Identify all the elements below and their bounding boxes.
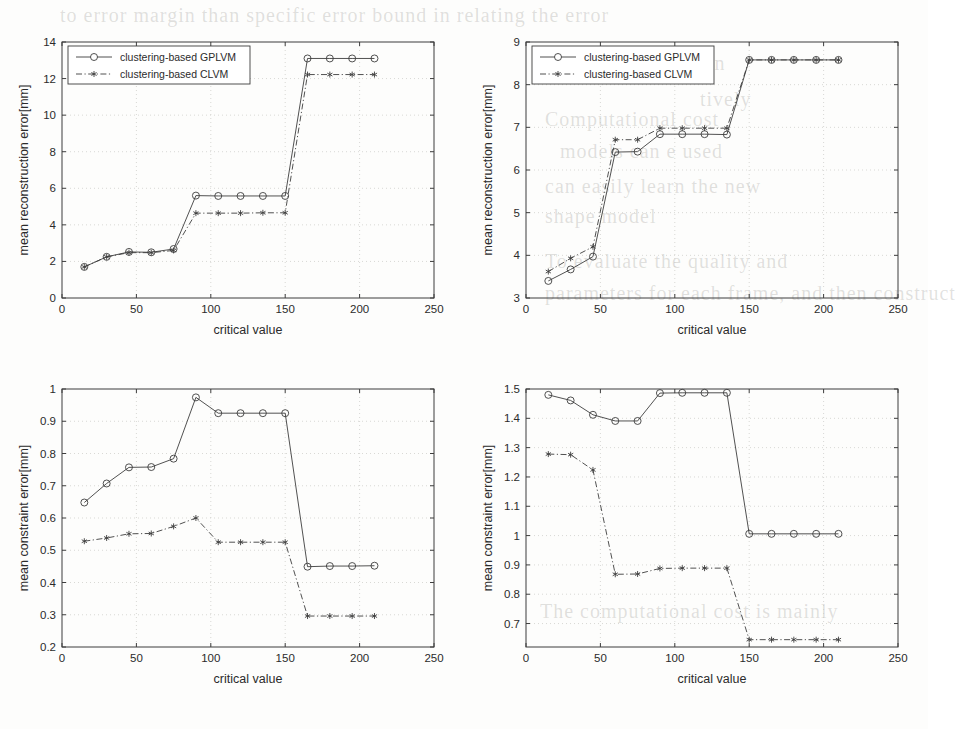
legend-label: clustering-based GPLVM — [584, 51, 700, 63]
asterisk-marker — [590, 467, 595, 473]
asterisk-marker — [546, 269, 551, 275]
x-tick-label: 150 — [276, 303, 295, 315]
asterisk-marker — [724, 565, 729, 571]
x-tick-label: 200 — [350, 652, 369, 664]
panel-bottom-left: 0501001502002500.20.30.40.50.60.70.80.91… — [0, 365, 464, 729]
asterisk-marker — [635, 137, 640, 143]
y-tick-label: 4 — [514, 249, 521, 261]
x-tick-label: 0 — [523, 652, 529, 664]
panel-top-left: 05010015020025002468101214critical value… — [0, 0, 464, 365]
x-tick-label: 250 — [888, 652, 907, 664]
y-tick-label: 1.3 — [504, 442, 520, 454]
y-tick-label: 0.5 — [40, 544, 56, 556]
chart-top-right: 0501001502002503456789critical valuemean… — [464, 0, 928, 365]
circle-marker — [91, 54, 98, 61]
legend: clustering-based GPLVMclustering-based C… — [68, 46, 250, 84]
y-tick-label: 1.5 — [504, 383, 520, 395]
y-tick-label: 8 — [50, 146, 56, 158]
x-tick-label: 250 — [888, 303, 907, 315]
x-axis-label: critical value — [678, 672, 747, 686]
asterisk-marker — [702, 125, 707, 131]
x-tick-label: 100 — [201, 303, 220, 315]
x-tick-label: 50 — [594, 303, 607, 315]
legend-label: clustering-based CLVM — [584, 68, 692, 80]
circle-marker — [555, 54, 562, 61]
y-tick-label: 1.2 — [504, 471, 520, 483]
y-tick-label: 2 — [50, 255, 56, 267]
y-tick-label: 0.7 — [504, 618, 520, 630]
asterisk-marker — [260, 539, 265, 545]
series-line-gplvm — [84, 58, 374, 266]
x-tick-label: 100 — [201, 652, 220, 664]
legend: clustering-based GPLVMclustering-based C… — [532, 46, 714, 84]
y-tick-label: 7 — [514, 121, 520, 133]
chart-bottom-left: 0501001502002500.20.30.40.50.60.70.80.91… — [0, 365, 464, 729]
y-tick-label: 0.4 — [40, 577, 57, 589]
asterisk-marker — [82, 264, 87, 270]
y-tick-label: 0.2 — [40, 641, 56, 653]
x-tick-label: 200 — [814, 652, 833, 664]
y-tick-label: 0.9 — [504, 559, 520, 571]
x-tick-label: 150 — [740, 303, 759, 315]
asterisk-marker — [327, 613, 332, 619]
chart-bottom-right: 0501001502002500.70.80.911.11.21.31.41.5… — [464, 365, 928, 729]
asterisk-marker — [171, 523, 176, 529]
asterisk-marker — [126, 531, 131, 537]
series-line-clvm — [548, 60, 838, 272]
x-tick-label: 250 — [424, 303, 443, 315]
asterisk-marker — [568, 452, 573, 458]
x-tick-label: 200 — [814, 303, 833, 315]
y-tick-label: 4 — [50, 219, 57, 231]
asterisk-marker — [613, 571, 618, 577]
chart-top-left: 05010015020025002468101214critical value… — [0, 0, 464, 365]
series-line-clvm — [548, 454, 838, 640]
legend-label: clustering-based GPLVM — [120, 51, 236, 63]
y-axis-label: mean constraint error[mm] — [17, 445, 31, 592]
x-tick-label: 50 — [130, 303, 143, 315]
asterisk-marker — [327, 72, 332, 78]
x-tick-label: 0 — [59, 652, 65, 664]
asterisk-marker — [791, 637, 796, 643]
x-tick-label: 150 — [276, 652, 295, 664]
series-line-gplvm — [548, 393, 838, 534]
y-tick-label: 0 — [50, 292, 56, 304]
y-tick-label: 0.8 — [40, 448, 56, 460]
y-tick-label: 5 — [514, 207, 520, 219]
x-tick-label: 0 — [523, 303, 529, 315]
x-axis-label: critical value — [214, 672, 283, 686]
y-tick-label: 0.7 — [40, 480, 56, 492]
y-tick-label: 1 — [514, 530, 520, 542]
y-tick-label: 10 — [43, 109, 56, 121]
panel-bottom-right: 0501001502002500.70.80.911.11.21.31.41.5… — [464, 365, 928, 729]
y-tick-label: 1.4 — [504, 412, 521, 424]
x-tick-label: 200 — [350, 303, 369, 315]
series-line-clvm — [84, 75, 374, 267]
y-tick-label: 0.8 — [504, 588, 520, 600]
y-axis-label: mean reconstruction error[mm] — [17, 85, 31, 256]
x-tick-label: 50 — [594, 652, 607, 664]
y-tick-label: 9 — [514, 36, 520, 48]
y-tick-label: 6 — [514, 164, 520, 176]
x-axis-label: critical value — [214, 323, 283, 337]
asterisk-marker — [568, 255, 573, 261]
x-axis-label: critical value — [678, 323, 747, 337]
x-tick-label: 0 — [59, 303, 65, 315]
legend-label: clustering-based CLVM — [120, 68, 228, 80]
y-tick-label: 1 — [50, 383, 56, 395]
y-tick-label: 6 — [50, 182, 56, 194]
y-tick-label: 14 — [43, 36, 56, 48]
series-line-gplvm — [84, 397, 374, 566]
x-tick-label: 150 — [740, 652, 759, 664]
asterisk-marker — [238, 210, 243, 216]
y-tick-label: 1.1 — [504, 500, 520, 512]
circle-marker — [81, 499, 88, 506]
x-tick-label: 50 — [130, 652, 143, 664]
panel-top-right: 0501001502002503456789critical valuemean… — [464, 0, 928, 365]
y-tick-label: 0.9 — [40, 415, 56, 427]
y-tick-label: 0.3 — [40, 609, 56, 621]
x-tick-label: 250 — [424, 652, 443, 664]
x-tick-label: 100 — [665, 303, 684, 315]
plot-frame — [526, 389, 898, 647]
x-tick-label: 100 — [665, 652, 684, 664]
y-tick-label: 3 — [514, 292, 520, 304]
